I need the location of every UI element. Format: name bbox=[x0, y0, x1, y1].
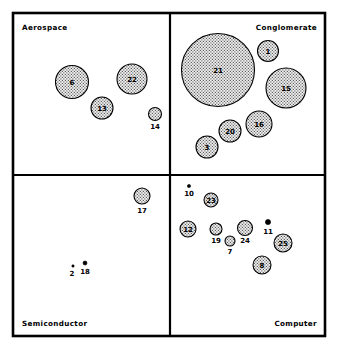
bubble-13[interactable]: 13 bbox=[91, 97, 113, 119]
bubble-label-11: 11 bbox=[263, 228, 273, 236]
bubble-20[interactable]: 20 bbox=[219, 120, 241, 142]
bubble-marker-17[interactable] bbox=[134, 188, 150, 204]
bubble-25[interactable]: 25 bbox=[274, 234, 292, 252]
bubble-1[interactable]: 1 bbox=[258, 41, 279, 62]
quadrant-label-conglomerate: Conglomerate bbox=[256, 23, 317, 32]
bubble-12[interactable]: 12 bbox=[180, 221, 196, 237]
bubble-marker-19[interactable] bbox=[210, 223, 222, 235]
bubble-label-16: 16 bbox=[254, 121, 264, 129]
bubble-label-15: 15 bbox=[281, 85, 291, 93]
bubble-label-25: 25 bbox=[278, 240, 288, 248]
bubble-label-14: 14 bbox=[150, 123, 160, 131]
bubble-3[interactable]: 3 bbox=[196, 136, 218, 158]
bubble-label-13: 13 bbox=[97, 105, 107, 113]
bubble-8[interactable]: 8 bbox=[253, 256, 271, 274]
bubble-21[interactable]: 21 bbox=[182, 34, 255, 107]
quadrant-label-semiconductor: Semiconductor bbox=[22, 319, 87, 328]
bubble-marker-2[interactable] bbox=[72, 265, 74, 267]
bubble-label-12: 12 bbox=[183, 226, 193, 234]
bubble-22[interactable]: 22 bbox=[117, 64, 147, 94]
bubble-quadrant-chart: Aerospace Conglomerate Semiconductor Com… bbox=[0, 0, 337, 349]
bubble-marker-7[interactable] bbox=[225, 236, 235, 246]
bubble-6[interactable]: 6 bbox=[56, 66, 89, 99]
bubble-label-21: 21 bbox=[213, 67, 223, 75]
bubble-label-18: 18 bbox=[80, 268, 90, 276]
quadrant-label-computer: Computer bbox=[274, 319, 317, 328]
bubble-marker-18[interactable] bbox=[83, 261, 87, 265]
bubble-16[interactable]: 16 bbox=[246, 111, 272, 137]
bubble-label-24: 24 bbox=[240, 237, 250, 245]
bubble-label-17: 17 bbox=[137, 207, 147, 215]
bubble-15[interactable]: 15 bbox=[266, 68, 306, 108]
bubble-14[interactable]: 14 bbox=[149, 108, 162, 132]
bubble-23[interactable]: 23 bbox=[204, 193, 218, 207]
bubble-marker-11[interactable] bbox=[265, 219, 270, 224]
bubble-19[interactable]: 19 bbox=[210, 223, 222, 245]
bubble-label-6: 6 bbox=[70, 79, 75, 87]
bubble-marker-24[interactable] bbox=[238, 221, 253, 236]
bubble-label-22: 22 bbox=[127, 76, 137, 84]
bubble-label-1: 1 bbox=[266, 48, 271, 56]
bubble-label-8: 8 bbox=[260, 262, 265, 270]
bubble-label-20: 20 bbox=[225, 128, 235, 136]
bubble-marker-14[interactable] bbox=[149, 108, 162, 121]
bubble-label-2: 2 bbox=[70, 270, 75, 278]
plot-area: Aerospace Conglomerate Semiconductor Com… bbox=[0, 0, 337, 349]
bubble-label-19: 19 bbox=[211, 237, 221, 245]
bubble-label-7: 7 bbox=[228, 248, 233, 256]
bubble-label-23: 23 bbox=[206, 197, 216, 205]
bubble-label-3: 3 bbox=[205, 144, 210, 152]
quadrant-label-aerospace: Aerospace bbox=[22, 23, 67, 32]
bubble-marker-10[interactable] bbox=[187, 184, 190, 187]
bubble-label-10: 10 bbox=[184, 190, 194, 198]
